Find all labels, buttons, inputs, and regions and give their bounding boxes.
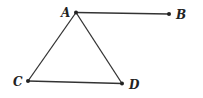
segment-ac [28,13,76,82]
segment-cd [28,81,122,84]
label-c: C [13,75,23,89]
segment-ab [76,13,169,15]
point-a [74,11,78,15]
point-d [120,82,124,86]
label-b: B [175,8,186,22]
point-c [26,79,30,83]
geometry-diagram: A B C D [0,0,203,98]
label-d: D [128,78,140,92]
label-a: A [60,6,70,20]
segment-ad [76,13,122,84]
point-b [167,12,171,16]
